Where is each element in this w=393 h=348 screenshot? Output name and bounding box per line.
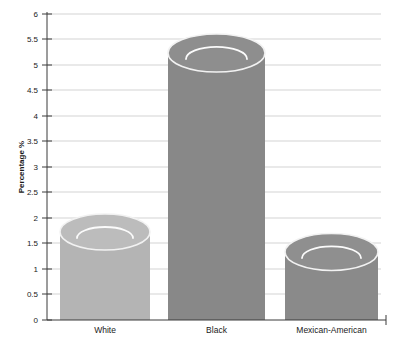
y-tick-label-1-5: 1.5	[27, 239, 39, 248]
bar-black-body	[168, 53, 265, 320]
y-axis-title: Percentage %	[17, 141, 26, 193]
y-tick-label-0: 0	[34, 316, 39, 325]
x-tick-label-black: Black	[206, 325, 228, 335]
y-axis: 6 5.5 5 4.5 4 3.5 3 2.5 2 1.5 1 0.5 0 Pe…	[17, 10, 52, 325]
bar-white[interactable]	[60, 214, 150, 320]
bar-chart: 6 5.5 5 4.5 4 3.5 3 2.5 2 1.5 1 0.5 0 Pe…	[0, 0, 393, 348]
chart-canvas: 6 5.5 5 4.5 4 3.5 3 2.5 2 1.5 1 0.5 0 Pe…	[0, 0, 393, 348]
x-tick-label-white: White	[94, 325, 116, 335]
y-tick-label-4: 4	[34, 112, 39, 121]
y-tick-label-5-5: 5.5	[27, 35, 39, 44]
y-tick-label-4-5: 4.5	[27, 86, 39, 95]
y-tick-label-2-5: 2.5	[27, 188, 39, 197]
y-tick-label-3: 3	[34, 163, 39, 172]
y-tick-label-6: 6	[34, 10, 39, 19]
y-tick-label-3-5: 3.5	[27, 137, 39, 146]
y-tick-label-2: 2	[34, 214, 39, 223]
y-tick-label-0-5: 0.5	[27, 290, 39, 299]
x-tick-label-mexican-american: Mexican-American	[296, 325, 367, 335]
y-tick-label-5: 5	[34, 61, 39, 70]
y-tick-label-1: 1	[34, 265, 39, 274]
bar-mexican-american[interactable]	[285, 234, 378, 321]
bar-black[interactable]	[168, 34, 265, 320]
